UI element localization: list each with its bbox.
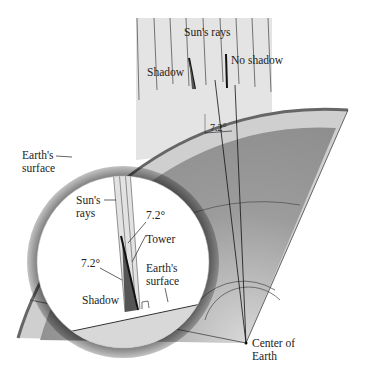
diagram-graphic [0, 0, 368, 372]
label-earths-surface-2: surface [22, 162, 55, 175]
leader-line [56, 156, 72, 157]
label-inset-earths: Earth's [146, 262, 177, 275]
label-inset-tower: Tower [146, 233, 175, 246]
label-inset-suns: Sun's [76, 194, 100, 207]
label-suns-rays: Sun's rays [184, 26, 230, 39]
eratosthenes-diagram: Sun's rays Shadow No shadow 7.2° Earth's… [0, 0, 368, 372]
label-inset-surface: surface [146, 275, 179, 288]
label-inset-rays: rays [76, 207, 95, 220]
label-no-shadow: No shadow [231, 54, 283, 67]
label-earth: Earth [252, 350, 277, 363]
label-angle-top: 7.2° [210, 121, 227, 134]
label-shadow: Shadow [147, 66, 184, 79]
label-inset-angle-lower: 7.2° [81, 257, 100, 270]
label-inset-angle-upper: 7.2° [146, 209, 165, 222]
label-earths-surface-1: Earth's [22, 149, 53, 162]
label-center-of: Center of [252, 337, 295, 350]
label-inset-shadow: Shadow [82, 294, 119, 307]
